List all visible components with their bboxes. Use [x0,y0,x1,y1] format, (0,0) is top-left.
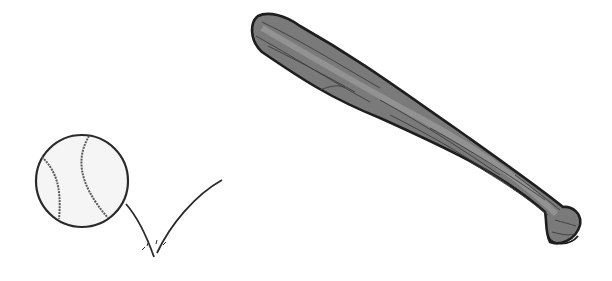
bounce-trajectory-icon [126,180,222,257]
baseball-icon [36,135,128,227]
illustration-canvas [0,0,612,281]
baseball-bat-icon [252,14,580,244]
